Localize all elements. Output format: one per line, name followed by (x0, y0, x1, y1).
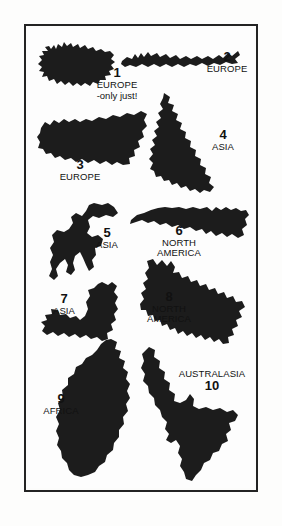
island-number-6: 6 (140, 224, 218, 237)
island-number-8: 8 (128, 290, 210, 303)
island-label-5: 5 ASIA (80, 226, 134, 250)
illustration-plate: 1 EUROPE -only just! 2 EUROPE (24, 24, 258, 492)
island-label-8: 8 NORTH AMERICA (128, 290, 210, 323)
island-continent-8: NORTH AMERICA (128, 304, 210, 323)
island-continent-6: NORTH AMERICA (140, 238, 218, 257)
island-continent-8-line2: AMERICA (128, 314, 210, 324)
island-label-7: 7 ASIA (36, 292, 92, 316)
island-continent-9: AFRICA (32, 406, 90, 416)
island-label-6: 6 NORTH AMERICA (140, 224, 218, 257)
plate-inner-field: 1 EUROPE -only just! 2 EUROPE (28, 28, 254, 488)
island-label-10: AUSTRALASIA 10 (168, 368, 256, 392)
island-number-10: 10 (168, 379, 256, 392)
island-label-4: 4 ASIA (194, 128, 252, 152)
island-label-3: 3 EUROPE (46, 158, 114, 182)
island-continent-3: EUROPE (46, 172, 114, 182)
island-number-9: 9 (32, 392, 90, 405)
island-number-2: 2 (196, 50, 258, 63)
island-continent-2: EUROPE (196, 64, 258, 74)
island-continent-4: ASIA (194, 142, 252, 152)
island-label-9: 9 AFRICA (32, 392, 90, 416)
new-zealand-north-island-silhouette (140, 344, 244, 486)
island-number-4: 4 (194, 128, 252, 141)
island-number-5: 5 (80, 226, 134, 239)
page-canvas: 1 EUROPE -only just! 2 EUROPE (0, 0, 282, 526)
island-continent-5: ASIA (80, 240, 134, 250)
island-label-2: 2 EUROPE (196, 50, 258, 74)
island-number-3: 3 (46, 158, 114, 171)
island-continent-7: ASIA (36, 306, 92, 316)
island-continent-1: EUROPE (80, 80, 154, 90)
island-note-1: -only just! (80, 91, 154, 101)
island-number-7: 7 (36, 292, 92, 305)
